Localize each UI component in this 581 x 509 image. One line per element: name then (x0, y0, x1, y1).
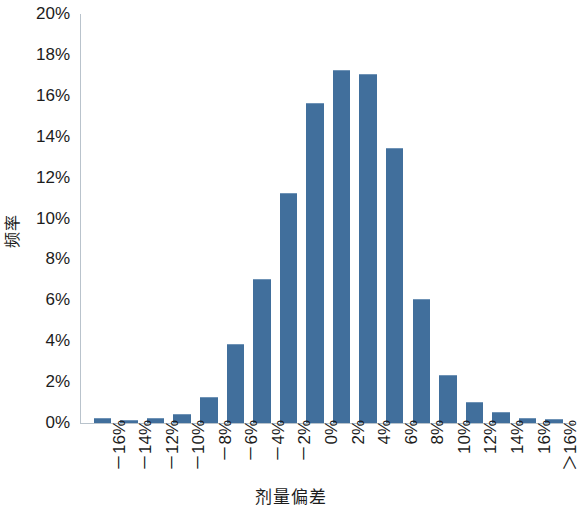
bars-layer (80, 14, 574, 423)
x-axis-tick-label: －14% (137, 420, 155, 480)
y-axis-tick-label: 4% (45, 332, 70, 349)
y-axis-tick-labels: 20%18%16%14%12%10%8%6%4%2%0% (16, 0, 74, 440)
x-axis-tick-label: －6% (243, 420, 261, 480)
x-axis-tick-label: 4% (376, 420, 394, 480)
y-axis-tick-label: 10% (36, 210, 70, 227)
bar (94, 418, 112, 423)
x-axis-tick-label: 10% (456, 420, 474, 480)
x-axis-tick-label: －2% (296, 420, 314, 480)
bar-chart: 频率 20%18%16%14%12%10%8%6%4%2%0% －16%－14%… (0, 0, 581, 509)
bar (386, 148, 404, 423)
y-axis-tick-label: 6% (45, 291, 70, 308)
x-axis-tick-label: 16% (536, 420, 554, 480)
x-axis-tick-label: －12% (164, 420, 182, 480)
y-axis-tick-label: 12% (36, 169, 70, 186)
bar (253, 279, 271, 423)
x-axis-tick-label: 0% (323, 420, 341, 480)
x-axis-tick-label: －8% (217, 420, 235, 480)
x-axis-tick-label: 14% (509, 420, 527, 480)
y-axis-tick-label: 20% (36, 5, 70, 22)
x-axis-tick-label: －4% (270, 420, 288, 480)
x-axis-title-label: 剂量偏差 (255, 488, 327, 507)
y-axis-tick-label: 8% (45, 250, 70, 267)
plot-area (80, 14, 574, 424)
bar (439, 375, 457, 423)
x-axis-tick-label: 12% (482, 420, 500, 480)
y-axis-tick-label: 14% (36, 128, 70, 145)
x-axis-tick-label: ＞16% (562, 420, 580, 480)
y-axis-tick-label: 18% (36, 46, 70, 63)
y-axis-tick-label: 2% (45, 373, 70, 390)
x-axis-title: 剂量偏差 (0, 483, 581, 508)
bar (306, 103, 324, 423)
y-axis-tick-label: 16% (36, 87, 70, 104)
x-axis-tick-label: 6% (403, 420, 421, 480)
x-axis-tick-label: －16% (111, 420, 129, 480)
x-axis-tick-label: －10% (190, 420, 208, 480)
bar (227, 344, 245, 423)
x-axis-tick-labels: －16%－14%－12%－10%－8%－6%－4%－2%0%2%4%6%8%10… (80, 424, 574, 480)
y-axis-tick-label: 0% (45, 414, 70, 431)
x-axis-tick-label: 2% (350, 420, 368, 480)
bar (280, 193, 298, 423)
bar (359, 74, 377, 423)
bar (413, 299, 431, 423)
bar (333, 70, 351, 423)
x-axis-tick-label: 8% (429, 420, 447, 480)
